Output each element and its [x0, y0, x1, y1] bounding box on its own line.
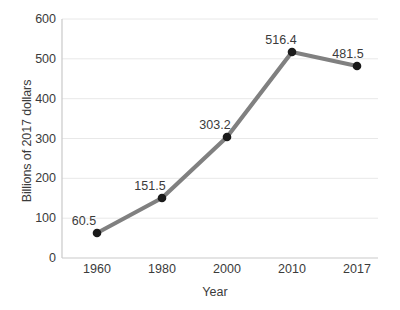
data-label-2000: 303.2 [199, 118, 230, 132]
y-tick-label-600: 600 [10, 12, 56, 26]
data-point-1960 [93, 229, 102, 238]
y-tick-label-300: 300 [10, 132, 56, 146]
x-tick-label-2000: 2000 [199, 262, 255, 276]
data-point-2010 [288, 48, 297, 57]
x-tick-label-1960: 1960 [69, 262, 125, 276]
data-label-2010: 516.4 [265, 33, 296, 47]
x-tick-label-1980: 1980 [134, 262, 190, 276]
data-point-1980 [158, 194, 167, 203]
y-tick-label-500: 500 [10, 52, 56, 66]
y-tick-label-100: 100 [10, 211, 56, 225]
data-label-1960: 60.5 [72, 214, 96, 228]
data-label-2017: 481.5 [332, 47, 363, 61]
data-label-1980: 151.5 [134, 179, 165, 193]
series-markers [93, 48, 362, 238]
line-chart: Billions of 2017 dollars 600 500 400 300… [0, 0, 400, 310]
series-line [97, 52, 357, 233]
y-tick-label-400: 400 [10, 92, 56, 106]
x-tick-label-2017: 2017 [329, 262, 385, 276]
data-point-2017 [353, 62, 362, 71]
x-tick-label-2010: 2010 [264, 262, 320, 276]
y-tick-label-0: 0 [10, 251, 56, 265]
data-point-2000 [223, 133, 232, 142]
x-axis-title: Year [62, 285, 368, 299]
y-tick-label-200: 200 [10, 171, 56, 185]
